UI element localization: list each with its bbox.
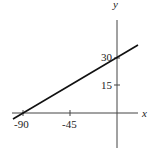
x-axis-label: x — [141, 107, 147, 119]
y-tick-label-15: 15 — [101, 79, 113, 91]
y-axis-label: y — [112, 0, 118, 10]
data-line — [13, 45, 138, 119]
y-tick-label-30: 30 — [101, 51, 113, 63]
x-tick-label-neg45: -45 — [62, 118, 77, 130]
chart: -90 -45 15 30 x y — [0, 0, 156, 155]
x-tick-label-neg90: -90 — [14, 118, 29, 130]
